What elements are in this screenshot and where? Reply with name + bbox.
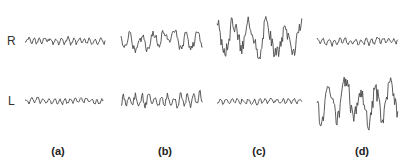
trace-c-R [217,17,302,59]
row-label-right: R [7,35,16,47]
trace-c-L [217,98,302,105]
panel-label-b: (b) [158,145,172,157]
eeg-figure: R L (a) (b) (c) (d) [0,0,408,167]
trace-b-L [121,90,203,108]
trace-b-R [121,30,203,53]
trace-a-R [25,36,105,45]
panel-label-d: (d) [355,145,369,157]
row-label-left: L [8,95,15,107]
eeg-traces [0,0,408,167]
panel-label-c: (c) [252,145,265,157]
trace-d-L [317,77,398,130]
trace-d-R [317,37,398,46]
panel-label-a: (a) [51,145,64,157]
trace-a-L [25,97,103,105]
